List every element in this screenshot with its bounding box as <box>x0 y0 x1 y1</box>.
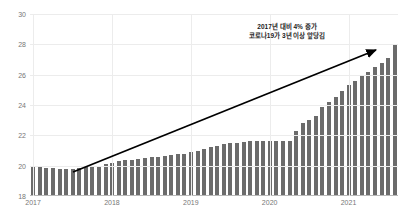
gridline-x <box>33 14 34 196</box>
bar <box>202 149 206 196</box>
gridline-x <box>270 14 271 196</box>
gridline-x <box>112 14 113 196</box>
bar <box>163 156 167 196</box>
callout-line-2: 코로나19가 3년 이상 앞당김 <box>232 31 342 40</box>
bar <box>150 157 154 196</box>
bar <box>261 141 265 196</box>
gridline-x <box>191 14 192 196</box>
gridline-y <box>30 166 398 167</box>
bar <box>156 157 160 196</box>
gridline-y <box>30 105 398 106</box>
plot-area: 1820222426283020172018201920202021 <box>30 14 398 196</box>
bar <box>143 158 147 196</box>
bar <box>386 58 390 196</box>
y-axis-tick-label: 28 <box>18 41 26 48</box>
bar <box>97 166 101 196</box>
bar <box>366 72 370 196</box>
gridline-y <box>30 44 398 45</box>
bar <box>222 144 226 196</box>
bar <box>281 141 285 196</box>
bar <box>136 159 140 196</box>
chart-root: 1820222426283020172018201920202021 2017년… <box>0 0 409 222</box>
x-axis-tick-label: 2018 <box>104 199 120 206</box>
bar <box>248 141 252 196</box>
bar <box>373 67 377 196</box>
y-axis-tick-label: 30 <box>18 11 26 18</box>
bar <box>288 141 292 196</box>
bar <box>255 141 259 196</box>
x-axis-tick-label: 2017 <box>25 199 41 206</box>
bar <box>334 97 338 196</box>
x-axis-tick-label: 2021 <box>341 199 357 206</box>
bar <box>235 143 239 196</box>
bar <box>169 155 173 196</box>
x-axis-line <box>30 195 398 196</box>
bar <box>294 131 298 196</box>
bar <box>242 142 246 196</box>
bar <box>353 81 357 196</box>
bar <box>196 151 200 197</box>
gridline-y <box>30 75 398 76</box>
bar <box>90 166 94 196</box>
y-axis-tick-label: 24 <box>18 102 26 109</box>
bar <box>209 147 213 196</box>
growth-callout: 2017년 대비 4% 증가 코로나19가 3년 이상 앞당김 <box>232 22 342 40</box>
bar <box>393 44 397 196</box>
y-axis-tick-label: 20 <box>18 162 26 169</box>
bar <box>176 154 180 196</box>
gridline-x <box>349 14 350 196</box>
y-axis-tick-label: 26 <box>18 71 26 78</box>
bar <box>380 63 384 196</box>
x-axis-tick-label: 2019 <box>183 199 199 206</box>
bar <box>84 167 88 196</box>
bar <box>274 141 278 196</box>
bar <box>228 143 232 196</box>
bar <box>182 154 186 196</box>
bar <box>44 168 48 196</box>
bar <box>340 91 344 196</box>
y-axis-tick-label: 22 <box>18 132 26 139</box>
bar <box>301 123 305 196</box>
bar <box>64 169 68 196</box>
bar <box>77 168 81 196</box>
bar <box>104 164 108 196</box>
bar <box>51 168 55 196</box>
bar <box>71 169 75 196</box>
bar <box>307 120 311 196</box>
gridline-y <box>30 14 398 15</box>
bar <box>38 167 42 196</box>
x-axis-tick-label: 2020 <box>262 199 278 206</box>
bar <box>327 102 331 196</box>
bar <box>215 146 219 196</box>
callout-line-1: 2017년 대비 4% 증가 <box>232 22 342 31</box>
bar <box>314 116 318 196</box>
bar <box>58 169 62 196</box>
gridline-y <box>30 135 398 136</box>
bar <box>320 107 324 196</box>
